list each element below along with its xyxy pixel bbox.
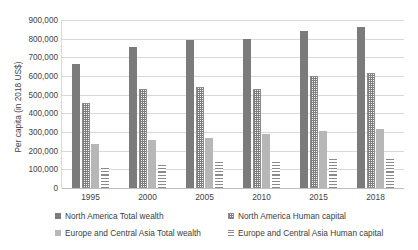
x-axis-tick-label: 2000	[119, 192, 176, 202]
y-axis-tick-label: 900,000	[2, 16, 58, 25]
bar	[262, 134, 270, 188]
legend-item[interactable]: North America Human capital	[228, 211, 346, 221]
legend-item[interactable]: Europe and Central Asia Human capital	[228, 228, 383, 238]
chart-legend: North America Total wealthNorth America …	[0, 209, 418, 250]
bar	[91, 144, 99, 188]
legend-item[interactable]: Europe and Central Asia Total wealth	[55, 228, 201, 238]
y-axis-tick-label: 600,000	[2, 72, 58, 81]
x-axis-tick-label: 2010	[233, 192, 290, 202]
bar	[386, 157, 394, 188]
bar	[319, 131, 327, 188]
bar	[272, 160, 280, 188]
bar	[367, 73, 375, 188]
bar	[186, 40, 194, 188]
legend-swatch-icon	[55, 230, 61, 236]
x-axis-tick-label: 2018	[347, 192, 404, 202]
legend-swatch-icon	[55, 213, 61, 219]
bar-group	[290, 20, 347, 188]
bar-group	[62, 20, 119, 188]
bar	[72, 64, 80, 188]
bar	[196, 87, 204, 188]
legend-label: Europe and Central Asia Total wealth	[65, 228, 201, 238]
x-axis-tick-label: 2005	[176, 192, 233, 202]
y-axis-tick-label: 800,000	[2, 34, 58, 43]
legend-swatch-icon	[228, 230, 234, 236]
bar	[148, 140, 156, 188]
legend-label: North America Total wealth	[65, 211, 164, 221]
bar-group	[176, 20, 233, 188]
bar	[376, 129, 384, 188]
bar	[139, 89, 147, 188]
legend-label: Europe and Central Asia Human capital	[238, 228, 383, 238]
y-axis-tick-label: 100,000	[2, 165, 58, 174]
bar	[215, 162, 223, 188]
chart-container: Per capita (in 2018 US$) 0100,000200,000…	[0, 0, 418, 250]
y-axis-tick-label: 300,000	[2, 128, 58, 137]
y-axis-tick-label: 0	[2, 184, 58, 193]
x-axis-tick-label: 1995	[62, 192, 119, 202]
y-axis-tick-label: 500,000	[2, 90, 58, 99]
bar-group	[233, 20, 290, 188]
bar	[158, 164, 166, 188]
bar	[300, 31, 308, 188]
x-axis-tick-labels: 199520002005201020152018	[62, 192, 404, 206]
bar	[82, 103, 90, 188]
y-axis-tick-label: 400,000	[2, 109, 58, 118]
x-axis-tick-label: 2015	[290, 192, 347, 202]
y-axis-tick-label: 200,000	[2, 146, 58, 155]
bar	[253, 89, 261, 188]
bar	[205, 138, 213, 188]
bar	[101, 167, 109, 188]
plot-area	[62, 20, 404, 188]
bar	[357, 27, 365, 188]
bar	[129, 47, 137, 188]
legend-label: North America Human capital	[238, 211, 346, 221]
bar-group	[347, 20, 404, 188]
x-axis-line	[62, 188, 404, 189]
bar	[310, 76, 318, 188]
legend-item[interactable]: North America Total wealth	[55, 211, 164, 221]
bar-group	[119, 20, 176, 188]
legend-swatch-icon	[228, 213, 234, 219]
bar	[329, 158, 337, 188]
y-axis-tick-label: 700,000	[2, 53, 58, 62]
bar	[243, 39, 251, 188]
